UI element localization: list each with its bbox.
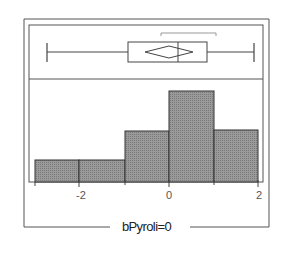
chart-caption-wrap: bPyroli=0 [0,219,293,234]
bar-bin-1 [35,160,79,182]
chart-caption: bPyroli=0 [116,219,177,234]
histogram [35,91,258,182]
box-plot [47,33,254,62]
x-tick-label-0: 0 [159,189,179,201]
bar-bin-3 [125,131,169,182]
x-tick-label-2: 2 [249,189,269,201]
x-tick-label-neg2: -2 [71,189,91,201]
bar-bin-4 [169,91,214,182]
iqr-box [128,42,207,62]
bar-bin-2 [79,160,125,182]
distribution-chart [0,0,293,256]
bar-bin-5 [214,130,258,182]
